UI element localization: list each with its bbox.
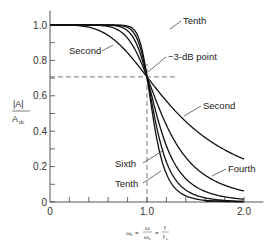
leader-top-second <box>102 45 113 51</box>
annotation-tail-second: Second <box>203 100 235 111</box>
leader-tail-fourth <box>212 169 226 176</box>
x-axis-label: ω n = ω ω c = f f c <box>126 225 169 241</box>
y-tick-label: 0.2 <box>33 161 47 172</box>
x-axis-label-frac2-num: f <box>164 225 166 231</box>
y-axis-label: |A| A dc <box>12 99 30 125</box>
annotation-tail-sixth: Sixth <box>115 158 136 169</box>
x-axis-label-eq2: = <box>155 230 159 236</box>
annotation-top-second: Second <box>69 45 101 56</box>
leader-top-tenth <box>170 21 181 29</box>
x-axis-label-frac2-den-sub: c <box>166 236 168 241</box>
x-axis-label-frac1-den-sub: c <box>149 236 151 241</box>
annotation-leaders <box>102 21 226 201</box>
reference-lines <box>50 64 176 202</box>
annotation-tail-fourth: Fourth <box>228 163 255 174</box>
y-axis-label-denominator: A <box>12 114 18 124</box>
leader-3db-point <box>148 57 166 72</box>
y-tick-label: 0.6 <box>33 90 47 101</box>
x-axis-label-eq1: = <box>135 230 139 236</box>
leader-tail-tenth <box>143 171 161 183</box>
y-axis-label-numerator: |A| <box>13 99 24 109</box>
y-tick-label: 0.4 <box>33 126 47 137</box>
x-tick-label: 0 <box>47 206 53 217</box>
y-tick-label: 0.8 <box>33 55 47 66</box>
x-tick-label: 2.0 <box>237 206 251 217</box>
annotation-top-tenth: Tenth <box>183 15 206 26</box>
butterworth-response-chart: 00.20.40.60.81.001.02.0 Tenth Second −3-… <box>0 0 270 252</box>
x-tick-label: 1.0 <box>140 206 154 217</box>
x-axis-label-lhs-sub: n <box>130 232 132 237</box>
x-axis-label-frac2-den: f <box>163 234 165 240</box>
annotation-tail-tenth: Tenth <box>115 178 138 189</box>
x-axis-label-frac1-num: ω <box>145 225 150 231</box>
y-axis-label-denominator-sub: dc <box>19 119 25 125</box>
leader-tail-second <box>184 106 201 116</box>
y-tick-label: 1.0 <box>33 20 47 31</box>
annotation-3db-point: −3-dB point <box>168 51 217 62</box>
